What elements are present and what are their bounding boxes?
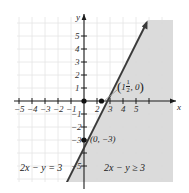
x-tick-label-4: 4 bbox=[121, 105, 126, 114]
x-tick-label--4: −4 bbox=[27, 105, 38, 114]
x-tick-label-3: 3 bbox=[108, 105, 113, 114]
x-tick-label-2: 2 bbox=[95, 105, 100, 114]
y-tick-label-1: 1 bbox=[75, 84, 80, 93]
y-intercept-annotation: (0, −3) bbox=[90, 135, 116, 144]
x-intercept-annotation: (112, 0) bbox=[117, 79, 144, 94]
y-tick-label--1: −1 bbox=[71, 110, 82, 119]
point-origin-marker bbox=[81, 98, 86, 103]
x-tick-label--3: −3 bbox=[40, 105, 51, 114]
paren-close: ) bbox=[139, 79, 143, 94]
x-axis-label: x bbox=[177, 103, 181, 112]
point-y-intercept bbox=[81, 137, 86, 142]
boundary-equation-label: 2x − y = 3 bbox=[20, 163, 62, 173]
x-tick-label--2: −2 bbox=[53, 105, 64, 114]
y-tick-label--5: −5 bbox=[71, 162, 82, 171]
x-tick-label--5: −5 bbox=[14, 105, 25, 114]
y-tick-label-5: 5 bbox=[75, 32, 80, 41]
inequality-region-label: 2x − y ≥ 3 bbox=[104, 163, 145, 173]
y-tick-label-2: 2 bbox=[75, 71, 80, 80]
y-tick-label-3: 3 bbox=[75, 58, 80, 67]
y-tick-label-4: 4 bbox=[75, 45, 80, 54]
y-axis-label: y bbox=[76, 13, 80, 22]
x-tick-label-5: 5 bbox=[134, 105, 139, 114]
y-tick-label--2: −2 bbox=[71, 123, 82, 132]
graph-figure: −5 −4 −3 −2 −1 2 3 4 5 5 4 3 2 1 −1 −2 −… bbox=[0, 0, 189, 193]
y-tick-label--3: −3 bbox=[71, 136, 82, 145]
point-x-intercept bbox=[99, 98, 104, 103]
